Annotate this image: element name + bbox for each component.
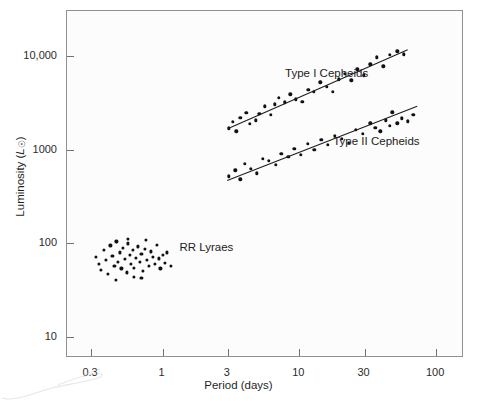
data-point	[381, 65, 384, 68]
data-point	[227, 175, 230, 178]
data-point	[263, 104, 266, 107]
y-tick-label: 10	[4, 330, 57, 342]
x-tick-label: 1	[159, 366, 165, 378]
data-point	[140, 252, 143, 255]
data-point	[239, 178, 242, 181]
y-tick	[67, 337, 74, 338]
data-point	[122, 246, 125, 249]
data-point	[331, 90, 334, 93]
data-point	[130, 262, 133, 265]
x-tick	[228, 349, 229, 356]
x-tick-label: 100	[426, 366, 444, 378]
data-point	[255, 171, 258, 174]
rr-lyraes-label: RR Lyraes	[179, 241, 233, 253]
data-point	[374, 126, 377, 129]
data-point	[123, 257, 126, 260]
x-tick	[163, 349, 164, 356]
data-point	[245, 111, 248, 114]
data-point	[147, 265, 150, 268]
data-point	[138, 260, 141, 263]
y-axis-title: Luminosity (L☉)	[14, 117, 27, 237]
data-point	[280, 152, 283, 155]
data-point	[107, 273, 110, 276]
data-point	[127, 237, 130, 240]
x-tick-label: 10	[292, 366, 304, 378]
data-point	[151, 255, 154, 258]
data-point	[97, 263, 100, 266]
data-point	[299, 153, 302, 156]
data-point	[318, 81, 321, 84]
data-point	[313, 148, 316, 151]
data-point	[289, 92, 292, 95]
data-point	[144, 247, 147, 250]
x-tick	[91, 349, 92, 356]
data-point	[306, 88, 309, 91]
y-tick-label: 10,000	[4, 49, 57, 61]
data-point	[254, 119, 257, 122]
data-point	[94, 255, 97, 258]
regression-line	[228, 49, 408, 129]
data-point	[239, 116, 242, 119]
data-point	[163, 261, 166, 264]
data-point	[136, 245, 139, 248]
data-point	[402, 52, 405, 55]
data-point	[125, 271, 128, 274]
y-tick-label: 1000	[4, 143, 57, 155]
y-tick	[67, 150, 74, 151]
data-point	[406, 120, 409, 123]
data-point	[326, 143, 329, 146]
data-point	[140, 276, 143, 279]
data-point	[269, 113, 272, 116]
data-point	[153, 263, 156, 266]
data-point	[116, 261, 119, 264]
data-point	[115, 240, 118, 243]
data-point	[261, 157, 264, 160]
data-point	[104, 259, 107, 262]
data-point	[155, 243, 158, 246]
data-point	[234, 169, 237, 172]
data-point	[114, 278, 117, 281]
data-point	[378, 130, 381, 133]
data-point	[145, 258, 148, 261]
data-point	[234, 130, 237, 133]
data-point	[391, 111, 394, 114]
y-tick	[67, 56, 74, 57]
data-point	[133, 275, 136, 278]
x-tick	[299, 349, 300, 356]
data-point	[248, 122, 251, 125]
type-i-cepheids-label: Type I Cepheids	[285, 67, 368, 79]
data-point	[400, 117, 403, 120]
data-point	[127, 242, 130, 245]
data-point	[396, 122, 399, 125]
y-tick	[67, 243, 74, 244]
data-point	[411, 113, 414, 116]
data-point	[274, 163, 277, 166]
data-point	[320, 138, 323, 141]
x-tick-label: 30	[357, 366, 369, 378]
y-axis-title-symbol: L	[14, 148, 26, 154]
y-tick-label: 100	[4, 236, 57, 248]
data-point	[161, 254, 164, 257]
data-point	[375, 56, 378, 59]
data-point	[166, 251, 169, 254]
x-tick	[436, 349, 437, 356]
data-point	[301, 100, 304, 103]
data-point	[133, 266, 136, 269]
data-point	[128, 253, 131, 256]
x-axis-title: Period (days)	[0, 379, 477, 391]
data-point	[145, 239, 148, 242]
y-axis-title-subscript: ☉	[17, 140, 27, 148]
data-point	[306, 142, 309, 145]
data-point	[109, 244, 112, 247]
data-point	[243, 162, 246, 165]
data-point	[231, 120, 234, 123]
y-axis-title-suffix: )	[14, 136, 26, 140]
x-tick-label: 0.3	[82, 366, 97, 378]
data-point	[99, 268, 102, 271]
data-point	[113, 264, 116, 267]
data-point	[159, 267, 162, 270]
data-point	[120, 267, 123, 270]
x-tick	[365, 349, 366, 356]
data-point	[131, 248, 134, 251]
data-point	[273, 102, 276, 105]
